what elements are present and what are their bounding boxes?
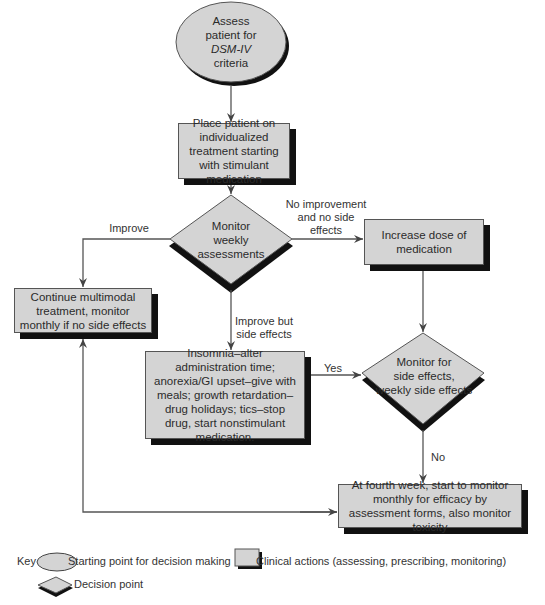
start-line-3: DSM-IV xyxy=(211,42,251,56)
monitor-side-effects-line-3: weekly side effects xyxy=(376,383,472,397)
edge-label-no-improvement: No improvement and no side effects xyxy=(283,198,369,237)
key-title: Key xyxy=(17,555,36,567)
edge-label-no: No xyxy=(428,451,448,464)
key-diamond-label: Decision point xyxy=(74,578,143,590)
place-patient-text: Place patient on individualized treatmen… xyxy=(183,116,285,186)
start-line-4: criteria xyxy=(214,56,249,70)
start-node: Assess patient for DSM-IV criteria xyxy=(176,6,286,78)
monitor-weekly-line-1: Monitor xyxy=(212,219,250,233)
monitor-side-effects-line-2: side effects, xyxy=(393,369,454,383)
edge-label-improve: Improve xyxy=(104,222,154,235)
monitor-side-effects-node: Monitor for side effects, weekly side ef… xyxy=(368,350,480,402)
side-effect-actions-text: Insomnia–alter administration time; anor… xyxy=(152,346,298,444)
side-effect-actions-box: Insomnia–alter administration time; anor… xyxy=(145,351,305,439)
monitor-weekly-line-3: assessments xyxy=(197,247,264,261)
fourth-week-text: At fourth week, start to monitor monthly… xyxy=(343,478,517,534)
start-line-2: patient for xyxy=(205,28,256,42)
edge-label-yes: Yes xyxy=(318,362,348,375)
monitor-side-effects-line-1: Monitor for xyxy=(397,355,452,369)
edge-label-improve-but-side-effects: Improve but side effects xyxy=(234,315,294,341)
fourth-week-box: At fourth week, start to monitor monthly… xyxy=(338,484,522,528)
monitor-weekly-line-2: weekly xyxy=(213,233,248,247)
continue-multimodal-box: Continue multimodal treatment, monitor m… xyxy=(14,288,152,333)
place-patient-box: Place patient on individualized treatmen… xyxy=(178,123,290,179)
key-ellipse-label: Starting point for decision making xyxy=(68,555,231,567)
increase-dose-text: Increase dose of medication xyxy=(381,228,467,256)
continue-multimodal-text: Continue multimodal treatment, monitor m… xyxy=(19,290,147,332)
key-rectangle-label: Clinical actions (assessing, prescribing… xyxy=(256,555,506,567)
increase-dose-box: Increase dose of medication xyxy=(364,219,484,265)
adhd-treatment-flowchart: Assess patient for DSM-IV criteria Place… xyxy=(0,0,545,605)
monitor-weekly-node: Monitor weekly assessments xyxy=(186,212,276,268)
start-line-1: Assess xyxy=(212,14,249,28)
